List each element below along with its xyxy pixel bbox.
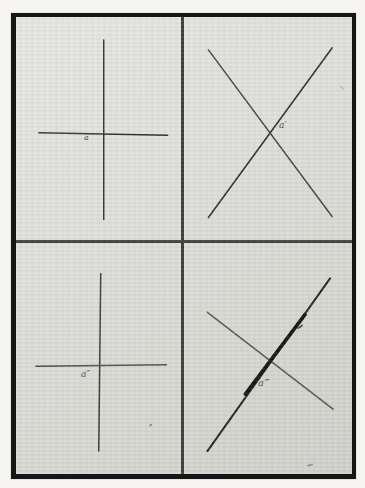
panel-label-a-double-prime: a″ xyxy=(81,370,91,379)
panel-divider-horizontal xyxy=(16,240,352,243)
plate-frame: a a′ a″ a‴ xyxy=(11,13,356,479)
panel-bottom-left-line-vertical xyxy=(99,273,101,451)
plate-paper: a a′ a″ a‴ xyxy=(16,17,352,474)
panel-label-a-triple-prime: a‴ xyxy=(258,378,270,388)
panel-label-a: a xyxy=(84,134,89,142)
panel-bottom-left-line-horizontal xyxy=(36,365,167,366)
faint-mark-top-right-panel xyxy=(339,85,345,90)
panel-bottom-right-line-rising-thick-overlay xyxy=(245,314,305,394)
plate-photo: a a′ a″ a‴ xyxy=(0,0,365,488)
figure-lines-canvas xyxy=(16,17,352,474)
speck-bottom-left-panel xyxy=(149,423,152,426)
smudge-bottom-right-corner xyxy=(307,463,314,466)
panel-label-a-prime: a′ xyxy=(279,121,287,130)
panel-divider-vertical xyxy=(181,17,184,474)
